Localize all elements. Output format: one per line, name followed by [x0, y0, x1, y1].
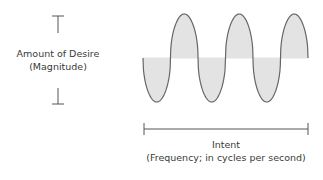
frequency-label-subtitle: (Frequency; in cycles per second): [146, 151, 306, 164]
frequency-bracket: [144, 123, 308, 135]
magnitude-label: Amount of Desire (Magnitude): [8, 47, 108, 73]
magnitude-label-title: Amount of Desire: [8, 47, 108, 60]
sine-wave: [143, 14, 308, 102]
magnitude-label-subtitle: (Magnitude): [8, 60, 108, 73]
frequency-label-title: Intent: [146, 138, 306, 151]
frequency-label: Intent (Frequency; in cycles per second): [146, 138, 306, 164]
